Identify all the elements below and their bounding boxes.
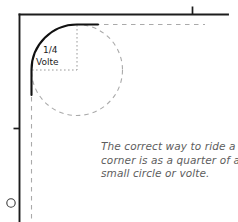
caption-line-3: small circle or volte. [101, 167, 229, 181]
volte-word-label: Volte [36, 56, 59, 68]
caption-line-1: The correct way to ride a [101, 140, 229, 154]
riding-a-corner-figure [0, 0, 238, 222]
corner-dot-icon [7, 199, 15, 207]
figure-caption: The correct way to ride a corner is as a… [101, 140, 229, 181]
volte-fraction-label: 1/4 [43, 44, 57, 56]
caption-line-2: corner is as a quarter of a [101, 154, 229, 168]
